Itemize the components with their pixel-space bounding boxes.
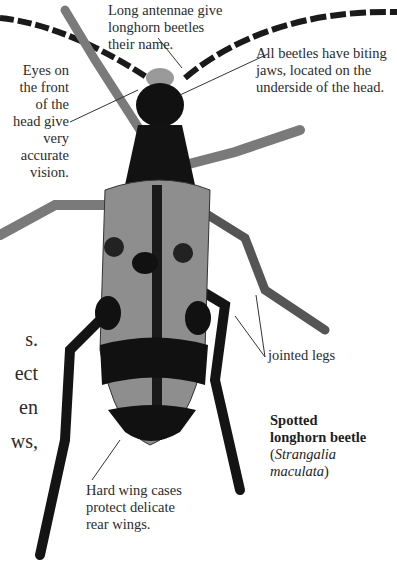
common-name-line2: longhorn beetle (270, 429, 366, 446)
legs-annotation: jointed legs (268, 347, 335, 364)
cropped-body-text: s. ect en ws, (0, 322, 38, 458)
front-right-leg (185, 130, 300, 165)
thorax (125, 125, 195, 185)
eyes-annotation: Eyes on the front of the head give very … (5, 62, 69, 181)
elytra-tip (108, 405, 196, 441)
middle-left-leg (0, 205, 105, 235)
antennae-annotation: Long antennae give longhorn beetles thei… (108, 2, 222, 53)
jaws-annotation: All beetles have biting jaws, located on… (256, 45, 387, 96)
beetle-figure: Long antennae give longhorn beetles thei… (0, 0, 397, 561)
elytra-suture (152, 185, 162, 440)
head (136, 83, 184, 127)
wing-cases-annotation: Hard wing cases protect delicate rear wi… (86, 482, 182, 533)
species-caption: Spotted longhorn beetle (Strangalia macu… (270, 412, 366, 480)
scientific-name-line2: maculata (270, 463, 324, 479)
scientific-name-line1: Strangalia (275, 446, 336, 462)
paren-close: ) (324, 463, 329, 479)
common-name-line1: Spotted (270, 412, 366, 429)
middle-right-leg (200, 210, 325, 330)
